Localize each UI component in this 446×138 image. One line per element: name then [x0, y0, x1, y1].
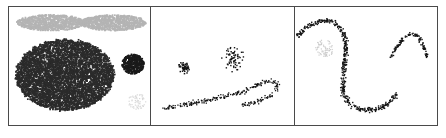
large-hook-curve [296, 18, 398, 113]
small-dark-blob [121, 54, 144, 75]
panel-c [294, 7, 437, 125]
faint-gray-patch [315, 40, 333, 57]
figure-container [0, 0, 446, 138]
panel-a [9, 7, 150, 125]
small-caret-curve [390, 32, 429, 58]
panel-b [150, 7, 294, 125]
panel-row [8, 6, 438, 126]
faint-gray-speckle [129, 94, 147, 110]
panel-b-canvas [151, 7, 294, 125]
dotted-arc-band [162, 78, 280, 109]
small-tight-cluster [178, 62, 189, 74]
scattered-round-cluster [221, 47, 244, 72]
panel-a-canvas [9, 7, 150, 125]
gray-cloud-left [16, 14, 87, 31]
gray-cloud-right [80, 14, 147, 31]
large-dark-ellipse [15, 38, 116, 112]
panel-c-canvas [295, 7, 437, 125]
